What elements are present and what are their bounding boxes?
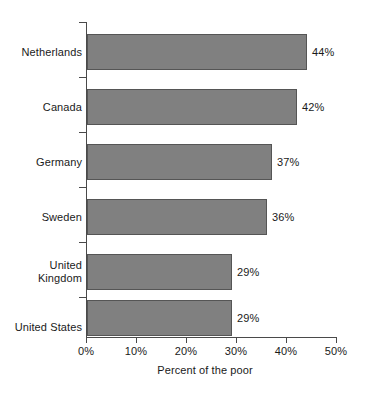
bar-canada — [87, 89, 297, 125]
category-label-united-kingdom: United Kingdom — [38, 259, 82, 285]
y-axis-tick — [79, 22, 86, 23]
x-axis-tick-label-0: 0% — [78, 345, 94, 358]
x-axis-line — [86, 337, 337, 338]
x-axis-tick — [136, 337, 137, 343]
y-axis-tick — [79, 132, 86, 133]
x-axis-tick-label-10: 10% — [125, 345, 147, 358]
plot-area: 44% 42% 37% 36% 29% 29% — [86, 22, 336, 337]
category-label-canada: Canada — [43, 101, 82, 114]
x-axis-tick-label-30: 30% — [225, 345, 247, 358]
bar-sweden — [87, 199, 267, 235]
bar-value-netherlands: 44% — [312, 34, 334, 70]
x-axis-tick — [186, 337, 187, 343]
x-axis-tick — [336, 337, 337, 343]
category-label-united-states: United States — [15, 321, 82, 334]
category-label-netherlands: Netherlands — [22, 46, 82, 59]
bar-chart: Netherlands Canada Germany Sweden United… — [0, 0, 368, 396]
x-axis-tick-label-50: 50% — [325, 345, 347, 358]
bar-value-germany: 37% — [277, 144, 299, 180]
bar-united-kingdom — [87, 254, 232, 290]
bar-value-united-states: 29% — [237, 300, 259, 336]
bar-united-states — [87, 300, 232, 336]
bar-germany — [87, 144, 272, 180]
bar-value-sweden: 36% — [272, 199, 294, 235]
y-axis-tick — [79, 297, 86, 298]
x-axis-tick — [286, 337, 287, 343]
category-label-germany: Germany — [36, 156, 82, 169]
x-axis-tick-label-20: 20% — [175, 345, 197, 358]
x-axis-tick — [236, 337, 237, 343]
bar-value-canada: 42% — [302, 89, 324, 125]
y-axis-tick — [79, 187, 86, 188]
bar-value-united-kingdom: 29% — [237, 254, 259, 290]
x-axis-title: Percent of the poor — [0, 363, 368, 377]
x-axis-tick-label-40: 40% — [275, 345, 297, 358]
y-axis-tick — [79, 77, 86, 78]
x-axis-tick — [86, 337, 87, 343]
y-axis-tick — [79, 242, 86, 243]
bar-netherlands — [87, 34, 307, 70]
category-label-sweden: Sweden — [42, 211, 82, 224]
